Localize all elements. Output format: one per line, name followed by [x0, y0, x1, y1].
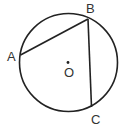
center-point — [67, 61, 70, 64]
chord-bc — [88, 19, 92, 107]
label-a: A — [7, 49, 16, 64]
geometry-diagram: A B O C — [0, 0, 123, 131]
label-o: O — [64, 65, 74, 80]
chord-ab — [21, 19, 89, 55]
label-c: C — [91, 112, 100, 127]
label-b: B — [86, 1, 95, 16]
